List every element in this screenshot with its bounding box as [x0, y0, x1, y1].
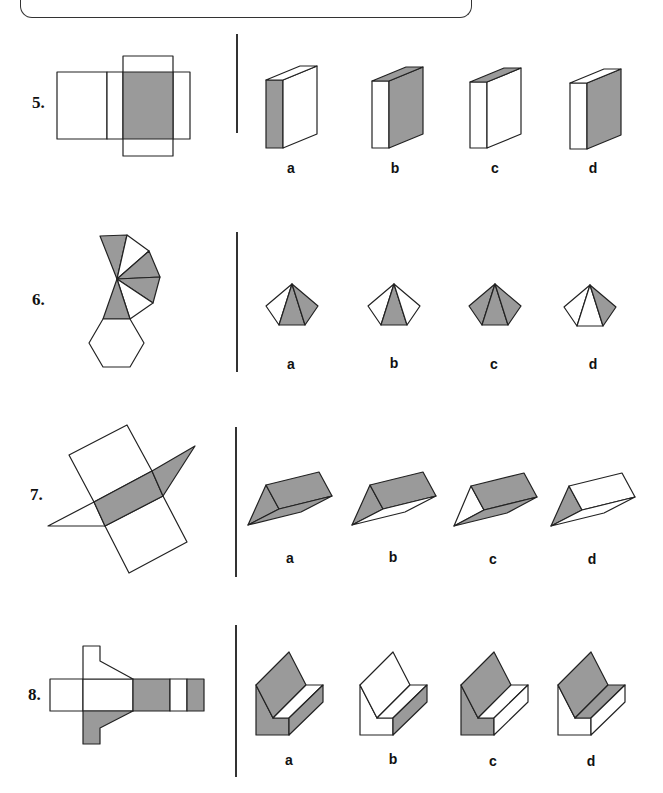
option-label-d[interactable]: d	[581, 753, 601, 769]
option-label-a[interactable]: a	[279, 752, 299, 768]
option-figures	[0, 0, 663, 793]
option-label-c[interactable]: c	[483, 753, 503, 769]
option-label-b[interactable]: b	[383, 751, 403, 767]
